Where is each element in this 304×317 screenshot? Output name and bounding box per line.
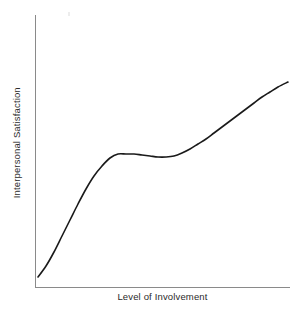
chart-figure: Interpersonal Satisfaction Level of Invo… <box>0 0 304 317</box>
data-curve-interpersonal-satisfaction <box>38 82 288 277</box>
plot-area <box>0 0 304 317</box>
x-axis-label: Level of Involvement <box>117 292 207 302</box>
y-axis-label: Interpersonal Satisfaction <box>12 87 22 198</box>
scan-speck-icon <box>68 12 70 16</box>
y-axis-label-container: Interpersonal Satisfaction <box>0 0 34 287</box>
x-axis-label-container: Level of Involvement <box>35 292 290 308</box>
